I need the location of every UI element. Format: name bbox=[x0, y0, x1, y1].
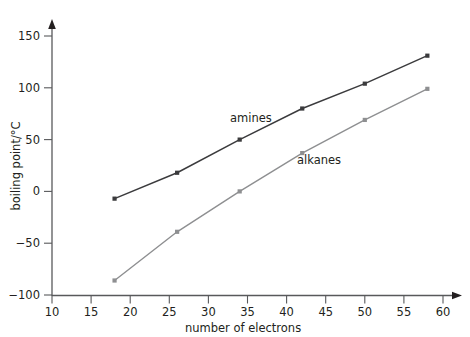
data-point-alkanes-2 bbox=[238, 189, 242, 193]
series-label-alkanes: alkanes bbox=[297, 153, 341, 167]
x-tick-label: 15 bbox=[84, 305, 99, 319]
data-point-alkanes-4 bbox=[363, 118, 367, 122]
data-point-amines-1 bbox=[175, 171, 179, 175]
data-point-alkanes-0 bbox=[112, 278, 116, 282]
x-tick-label: 50 bbox=[357, 305, 372, 319]
x-tick-label: 40 bbox=[279, 305, 294, 319]
data-point-amines-2 bbox=[238, 138, 242, 142]
x-tick-label: 60 bbox=[436, 305, 451, 319]
data-point-alkanes-1 bbox=[175, 230, 179, 234]
y-tick-label: −100 bbox=[8, 288, 40, 302]
y-tick-label: 50 bbox=[25, 133, 40, 147]
data-point-amines-4 bbox=[363, 82, 367, 86]
x-tick-label: 30 bbox=[201, 305, 216, 319]
y-tick-label: −50 bbox=[16, 236, 40, 250]
data-point-amines-5 bbox=[425, 54, 429, 58]
x-axis-title: number of electrons bbox=[185, 321, 301, 335]
x-tick-label: 25 bbox=[162, 305, 177, 319]
x-tick-label: 10 bbox=[45, 305, 60, 319]
data-point-amines-0 bbox=[112, 197, 116, 201]
series-label-amines: amines bbox=[230, 111, 272, 125]
x-tick-label: 55 bbox=[397, 305, 412, 319]
x-tick-label: 45 bbox=[318, 305, 333, 319]
data-point-alkanes-5 bbox=[425, 87, 429, 91]
x-tick-label: 20 bbox=[123, 305, 138, 319]
y-tick-label: 100 bbox=[18, 81, 40, 95]
x-tick-label: 35 bbox=[240, 305, 255, 319]
y-axis-title: boiling point/°C bbox=[9, 121, 23, 210]
chart-figure: 150 100 50 0 −50 −100 10 15 20 25 30 bbox=[0, 0, 470, 337]
chart-background bbox=[0, 0, 470, 337]
y-tick-label: 150 bbox=[18, 29, 40, 43]
data-point-amines-3 bbox=[300, 106, 304, 110]
line-chart: 150 100 50 0 −50 −100 10 15 20 25 30 bbox=[0, 0, 470, 337]
y-tick-label: 0 bbox=[33, 184, 40, 198]
